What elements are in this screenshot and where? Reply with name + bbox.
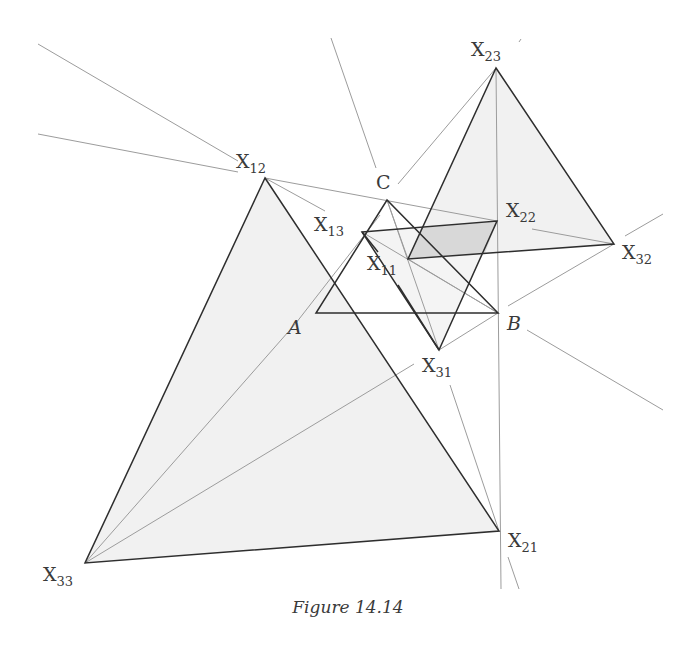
figure-caption: Figure 14.14 [0,597,696,617]
label-X22: X22 [506,201,536,220]
tick-X23 [519,39,521,42]
figure-14-14: X12 X23 C X13 X22 X11 X32 A B X31 X21 X3… [0,0,696,647]
line-B-X32 [508,244,614,306]
ray-X21-down [508,557,519,589]
ray-X12-left [38,134,238,172]
ray-B-down-right [527,330,663,410]
ray-C-up [331,38,376,168]
label-C: C [376,173,391,192]
label-B: B [507,314,521,333]
label-X13: X13 [314,215,344,234]
label-X31: X31 [422,356,452,375]
label-X33: X33 [43,565,73,584]
label-X12: X12 [236,152,266,171]
label-X32: X32 [622,243,652,262]
label-X11: X11 [367,254,397,273]
label-X23: X23 [471,40,501,59]
geometry-diagram [0,0,696,647]
ray-X32-right [625,214,663,236]
label-X21: X21 [508,531,538,550]
label-A: A [288,318,302,337]
ray-X12-upper-left [38,44,238,161]
